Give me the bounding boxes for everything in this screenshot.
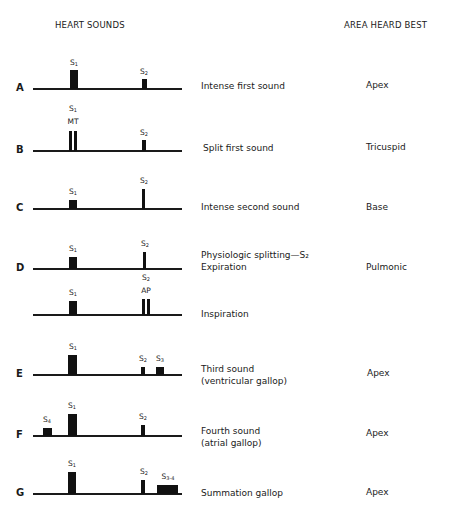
ap-label: AP [134,286,158,295]
row-area: Apex [366,428,389,438]
s1-label: S1 [61,104,85,113]
row-description: Fourth sound (atrial gallop) [201,425,262,449]
s2-bar [141,367,145,375]
s4-label: S4 [35,415,59,424]
mt-label: MT [61,117,85,126]
row-area: Apex [366,487,389,497]
s1-label: S1 [61,288,85,297]
description-line: Physiologic splitting—S₂ [201,249,309,261]
s2-bar [143,252,146,269]
s2-label: S2 [131,412,155,421]
row-letter: C [16,202,23,213]
s2-bar [142,140,146,151]
row-description: Inspiration [201,308,249,320]
baseline [33,435,182,437]
baseline [33,88,182,90]
s2-a-bar [142,299,145,315]
row-area: Apex [367,368,390,378]
s1-label: S1 [61,244,85,253]
s2-bar [142,79,147,89]
s2-label: S2 [132,128,156,137]
row-letter: B [16,144,24,155]
row-letter: E [16,368,23,379]
row-area: Pulmonic [366,262,407,272]
s1-t-bar [74,131,77,151]
s3-4-label: S3-4 [156,472,180,481]
s3-bar [156,367,164,375]
row-area: Base [366,202,388,212]
description-line: (atrial gallop) [201,437,262,449]
s1-bar [69,257,77,269]
heart-sounds-header: HEART SOUNDS [55,20,125,30]
s3-4-bar [157,485,178,494]
row-description: Physiologic splitting—S₂ Expiration [201,249,309,273]
s1-label: S1 [61,342,85,351]
s2-label: S2 [133,239,157,248]
s1-bar [69,301,77,315]
row-letter: G [16,487,24,498]
row-description: Third sound (ventricular gallop) [201,363,287,387]
row-area: Tricuspid [366,142,406,152]
row-description: Intense second sound [201,201,300,213]
s2-label: S2 [132,176,156,185]
s2-label: S2 [132,467,156,476]
row-area: Apex [366,80,389,90]
baseline [33,314,182,316]
s2-bar [142,189,145,209]
s2-bar [141,480,145,494]
row-letter: D [16,262,24,273]
description-line: Third sound [201,363,287,375]
s1-m-bar [69,131,72,151]
baseline [33,150,182,152]
row-description: Intense first sound [201,80,285,92]
description-line: Expiration [201,261,309,273]
s1-bar [69,200,77,209]
s1-label: S1 [60,401,84,410]
s2-label: S2 [132,67,156,76]
row-description: Split first sound [203,142,274,154]
s1-bar [68,472,76,494]
s1-label: S1 [61,187,85,196]
row-letter: A [16,82,24,93]
s4-bar [43,428,52,436]
s2-p-bar [147,299,150,315]
description-line: Fourth sound [201,425,262,437]
s2-label: S2 [134,273,158,282]
row-letter: F [16,429,23,440]
baseline [33,268,182,270]
s1-bar [68,355,77,375]
s1-bar [70,70,78,89]
s1-label: S1 [62,58,86,67]
area-heard-best-header: AREA HEARD BEST [344,20,427,30]
description-line: (ventricular gallop) [201,375,287,387]
s3-label: S3 [148,354,172,363]
s1-bar [68,414,77,436]
s1-label: S1 [60,459,84,468]
s2-bar [141,425,145,436]
row-description: Summation gallop [201,487,283,499]
baseline [33,208,182,210]
